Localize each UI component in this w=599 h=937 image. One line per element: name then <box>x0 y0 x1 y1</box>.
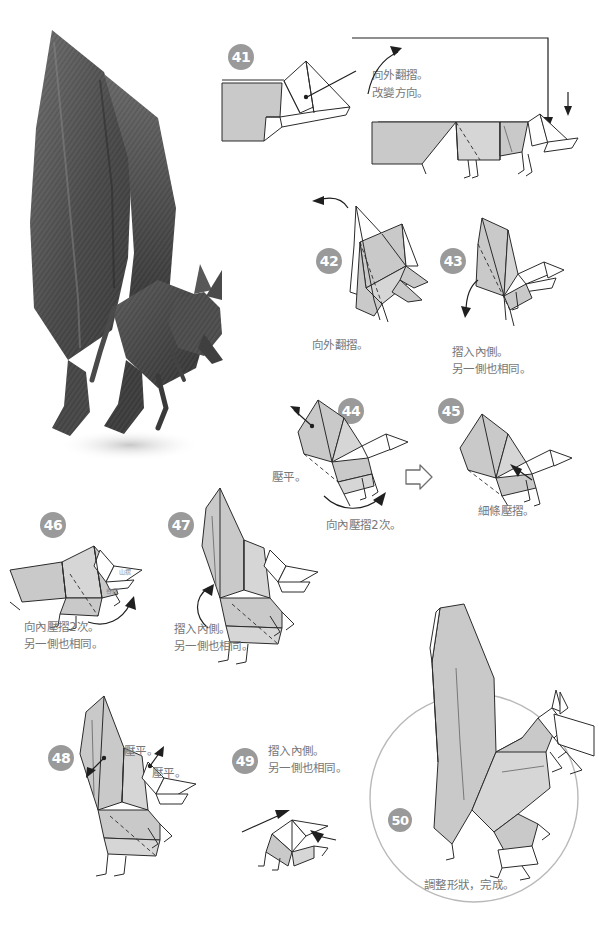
step-47-caption-2: 另一側也相同。 <box>174 639 253 654</box>
step-41-left-diagram <box>222 55 352 155</box>
step-43-caption-2: 另一側也相同。 <box>452 362 531 377</box>
step-45-caption: 細條壓摺。 <box>478 504 535 519</box>
step-badge-49: 49 <box>232 748 258 774</box>
step-41-right-diagram <box>372 108 594 180</box>
step-46-label-valley: 谷摺 <box>106 587 119 594</box>
finished-origami-bat-photo <box>8 8 223 468</box>
step-48-caption-2: 壓平。 <box>152 766 186 781</box>
step-46-label-mountain: 山摺 <box>119 568 132 575</box>
step-46-caption-2: 另一側也相同。 <box>24 637 103 652</box>
step-43-caption-1: 摺入內側。 <box>452 345 509 360</box>
step-44-caption-1: 壓平。 <box>272 470 306 485</box>
step-46-caption-1: 向內壓摺2次。 <box>24 620 99 635</box>
step-50-caption: 調整形狀，完成。 <box>424 878 514 893</box>
step-46-diagram <box>10 526 165 631</box>
step-49-diagram <box>258 808 348 878</box>
step-47-caption-1: 摺入內側。 <box>174 622 231 637</box>
step-49-caption-2: 另一側也相同。 <box>268 761 347 776</box>
step-48-diagram <box>58 692 218 892</box>
step-42-diagram <box>330 196 450 326</box>
step-45-diagram <box>440 408 580 508</box>
step-50-finished-model <box>398 602 598 882</box>
step-48-caption-1: 壓平。 <box>124 744 158 759</box>
step-43-diagram <box>452 200 582 330</box>
step-49-caption-1: 摺入內側。 <box>268 744 325 759</box>
step-42-caption: 向外翻摺。 <box>312 338 369 353</box>
hollow-arrow-44-to-45 <box>404 464 434 492</box>
origami-instruction-page: 41 向外翻摺。 改變方向。 <box>0 0 599 937</box>
